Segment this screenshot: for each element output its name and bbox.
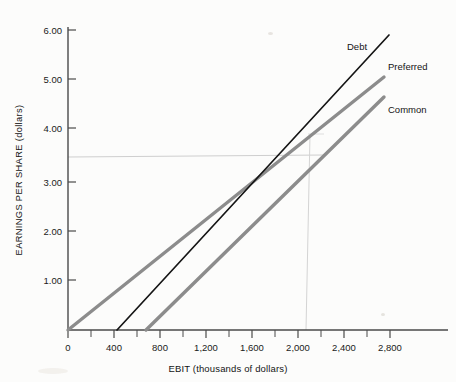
indifference-ebit-line xyxy=(306,134,310,330)
y-tick-label-2: 2.00 xyxy=(44,226,63,237)
series-label-preferred: Preferred xyxy=(388,61,428,72)
y-tick-label-1: 1.00 xyxy=(44,275,63,286)
x-tick-label-400: 400 xyxy=(106,342,122,353)
y-tick-label-4: 4.00 xyxy=(44,123,63,134)
x-tick-label-0: 0 xyxy=(65,342,70,353)
y-tick-label-5: 5.00 xyxy=(44,74,63,85)
x-tick-label-1200: 1,200 xyxy=(194,342,218,353)
series-line-preferred[interactable] xyxy=(68,77,384,330)
ebit-eps-plot: 6.00 5.00 4.00 3.00 2.00 1.00 xyxy=(0,0,456,382)
series-label-common: Common xyxy=(388,104,427,115)
y-tick-label-3: 3.00 xyxy=(44,177,63,188)
ebit-eps-chart-figure: 6.00 5.00 4.00 3.00 2.00 1.00 xyxy=(0,0,456,382)
y-tick-label-6: 6.00 xyxy=(44,25,63,36)
y-axis-ticks xyxy=(68,30,76,280)
series-labels: Debt Preferred Common xyxy=(347,41,428,115)
x-tick-label-2000: 2,000 xyxy=(286,342,310,353)
series-label-debt: Debt xyxy=(347,41,367,52)
x-tick-label-1600: 1,600 xyxy=(240,342,264,353)
x-axis-ticks xyxy=(68,330,390,338)
y-axis-title: EARNINGS PER SHARE (dollars) xyxy=(14,105,24,256)
x-tick-label-800: 800 xyxy=(152,342,168,353)
y-axis-tick-labels: 6.00 5.00 4.00 3.00 2.00 1.00 xyxy=(44,25,63,286)
x-axis-tick-labels: 0 400 800 1,200 1,600 2,000 2,400 2,800 xyxy=(65,342,402,353)
series-line-common[interactable] xyxy=(146,97,384,330)
series-line-debt[interactable] xyxy=(117,35,389,330)
x-axis-title: EBIT (thousands of dollars) xyxy=(169,363,288,374)
x-tick-label-2800: 2,800 xyxy=(378,342,402,353)
x-tick-label-2400: 2,400 xyxy=(332,342,356,353)
data-series xyxy=(68,35,389,330)
